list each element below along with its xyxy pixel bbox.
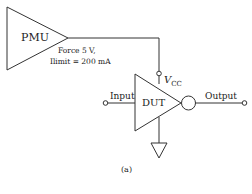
diagram-canvas: PMU Force 5 V, Ilimit = 200 mA VCC DUT I… [0,0,252,194]
output-terminal-icon [242,101,247,106]
inversion-bubble-icon [182,96,196,110]
dut-label: DUT [142,98,165,108]
input-terminal-icon [103,101,108,106]
output-label: Output [205,92,237,101]
ground-icon [151,143,167,158]
input-label: Input [110,92,135,101]
vcc-label-subscript: CC [171,80,182,88]
pmu-label: PMU [21,32,49,43]
force-voltage-label: Force 5 V, [58,47,96,55]
current-limit-label: Ilimit = 200 mA [50,58,111,66]
vcc-terminal-icon [157,71,162,76]
vcc-label: VCC [164,75,182,88]
figure-caption: (a) [121,166,132,174]
